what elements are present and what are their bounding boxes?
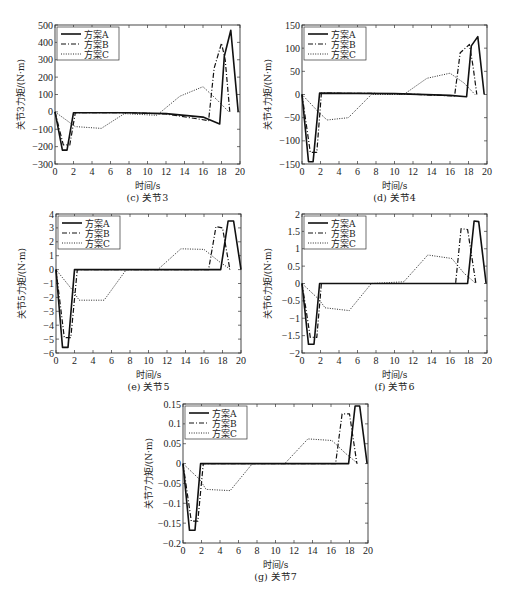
x-tick-label: 6 (109, 355, 114, 366)
y-tick-label: −200 (32, 141, 53, 152)
x-axis-label: 时间/s (263, 559, 289, 570)
legend-label-c: 方案C (85, 238, 110, 249)
y-tick-label: 1 (295, 243, 300, 254)
legend-label-c: 方案C (212, 428, 237, 439)
legend-label-b: 方案B (331, 39, 356, 50)
y-axis-label: 关节3力矩/(N·m) (15, 59, 26, 130)
series-line-c (302, 73, 475, 120)
y-axis-label: 关节7力矩/(N·m) (143, 438, 154, 509)
figure: 02468101214161820−300−200−10001002003004… (0, 0, 509, 599)
x-tick-label: 4 (90, 166, 95, 177)
y-tick-label: 0.5 (288, 261, 301, 272)
y-tick-label: −150 (279, 159, 300, 170)
y-tick-label: 200 (38, 72, 53, 83)
x-tick-label: 10 (390, 166, 400, 177)
x-tick-label: 16 (445, 166, 455, 177)
x-tick-label: 12 (162, 355, 172, 366)
y-tick-label: −100 (279, 135, 300, 146)
y-tick-label: 2 (49, 236, 54, 247)
x-tick-label: 8 (374, 355, 379, 366)
x-tick-label: 16 (445, 355, 455, 366)
x-tick-label: 12 (408, 355, 418, 366)
x-tick-label: 2 (71, 166, 76, 177)
y-tick-label: −5 (43, 334, 54, 345)
y-tick-label: −0.05 (158, 478, 181, 489)
legend-label-c: 方案C (331, 49, 356, 60)
legend-label-a: 方案A (331, 218, 356, 229)
y-tick-label: 0 (176, 458, 181, 469)
y-tick-label: 100 (38, 89, 53, 100)
x-tick-label: 8 (255, 545, 260, 556)
subplot-d: 02468101214161820−150−100−50050100150方案A… (262, 20, 492, 204)
x-tick-label: 10 (271, 545, 281, 556)
x-tick-label: 0 (54, 355, 59, 366)
x-axis-label: 时间/s (382, 369, 408, 380)
y-tick-label: 50 (290, 66, 300, 77)
y-tick-label: −0.1 (163, 498, 181, 509)
x-tick-label: 6 (108, 166, 113, 177)
x-tick-label: 18 (218, 355, 228, 366)
x-tick-label: 14 (180, 166, 190, 177)
legend-label-a: 方案A (331, 29, 356, 40)
x-tick-label: 6 (355, 166, 360, 177)
x-tick-label: 0 (181, 545, 186, 556)
subplot-caption: (g) 关节7 (254, 571, 297, 582)
subplot-caption: (e) 关节5 (127, 381, 169, 392)
legend-label-b: 方案B (84, 39, 109, 50)
x-tick-label: 16 (199, 355, 209, 366)
y-tick-label: 0.1 (169, 418, 182, 429)
y-tick-label: 100 (285, 43, 300, 54)
x-tick-label: 0 (53, 166, 58, 177)
y-tick-label: −2 (43, 292, 54, 303)
x-tick-label: 2 (199, 545, 204, 556)
x-tick-label: 8 (374, 166, 379, 177)
x-tick-label: 20 (482, 166, 492, 177)
legend-label-c: 方案C (84, 49, 109, 60)
y-tick-label: 1 (49, 250, 54, 261)
x-tick-label: 12 (161, 166, 171, 177)
x-tick-label: 0 (300, 355, 305, 366)
x-tick-label: 14 (181, 355, 191, 366)
subplot-f: 02468101214161820−2−1.5−1−0.500.511.52方案… (262, 209, 492, 393)
subplot-caption: (f) 关节6 (375, 381, 415, 392)
y-tick-label: −3 (43, 306, 54, 317)
y-tick-label: 0 (295, 278, 300, 289)
series-line-c (56, 249, 231, 300)
x-tick-label: 10 (144, 355, 154, 366)
legend-label-c: 方案C (331, 238, 356, 249)
y-tick-label: 1.5 (288, 226, 301, 237)
y-tick-label: −100 (32, 124, 53, 135)
x-tick-label: 10 (143, 166, 153, 177)
x-tick-label: 18 (217, 166, 227, 177)
series-line-c (183, 439, 358, 491)
x-tick-label: 10 (390, 355, 400, 366)
y-axis-label: 关节4力矩/(N·m) (262, 59, 273, 130)
x-axis-label: 时间/s (135, 180, 161, 191)
series-line-c (55, 87, 229, 129)
x-tick-label: 4 (91, 355, 96, 366)
y-tick-label: −1.5 (282, 330, 300, 341)
x-tick-label: 2 (318, 355, 323, 366)
y-tick-label: −50 (284, 112, 300, 123)
x-tick-label: 2 (72, 355, 77, 366)
y-axis-label: 关节6力矩/(N·m) (262, 248, 273, 319)
x-tick-label: 20 (482, 355, 492, 366)
x-tick-label: 6 (236, 545, 241, 556)
y-axis-label: 关节5力矩/(N·m) (16, 248, 27, 319)
subplot-g: 02468101214161820−0.2−0.15−0.1−0.0500.05… (143, 399, 373, 583)
y-tick-label: 0.15 (164, 399, 182, 410)
y-tick-label: −4 (43, 320, 54, 331)
x-tick-label: 4 (218, 545, 223, 556)
x-tick-label: 8 (128, 355, 133, 366)
series-line-b (302, 45, 477, 153)
x-tick-label: 14 (308, 545, 318, 556)
y-tick-label: −300 (32, 159, 53, 170)
x-tick-label: 14 (427, 355, 437, 366)
y-tick-label: 0.05 (164, 438, 182, 449)
x-tick-label: 20 (236, 355, 246, 366)
x-tick-label: 2 (318, 166, 323, 177)
y-tick-label: −0.2 (163, 538, 181, 549)
x-tick-label: 0 (300, 166, 305, 177)
x-tick-label: 6 (355, 355, 360, 366)
x-tick-label: 20 (363, 545, 373, 556)
